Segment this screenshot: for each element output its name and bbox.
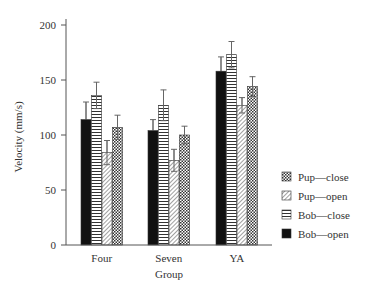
- y-tick-label: 0: [51, 239, 57, 251]
- bar: [81, 120, 91, 245]
- bar: [227, 55, 237, 245]
- legend-label: Pup—open: [298, 190, 348, 202]
- y-axis-label: Velocity (mm/s): [12, 101, 25, 173]
- bar: [169, 160, 179, 245]
- bar: [180, 135, 190, 245]
- bar: [102, 153, 112, 245]
- bar: [148, 131, 158, 245]
- legend-label: Pup—close: [298, 171, 349, 183]
- legend-swatch-icon: [282, 191, 291, 200]
- y-tick-label: 200: [40, 19, 57, 31]
- bar-group-ya: [216, 42, 258, 246]
- x-tick-label: Seven: [155, 252, 182, 264]
- legend-label: Bob—close: [298, 209, 350, 221]
- legend-item: Bob—close: [282, 209, 350, 221]
- y-tick-label: 100: [40, 129, 57, 141]
- y-tick-label: 150: [40, 74, 57, 86]
- bar: [216, 71, 226, 245]
- bar: [159, 105, 169, 245]
- legend-item: Bob—open: [282, 228, 349, 240]
- bar: [248, 87, 258, 245]
- bar: [237, 105, 247, 245]
- x-axis: FourSevenYA: [66, 245, 272, 264]
- legend-item: Pup—close: [282, 171, 349, 183]
- legend: Pup—closePup—openBob—closeBob—open: [282, 171, 350, 240]
- x-axis-label: Group: [155, 268, 184, 280]
- bar: [92, 95, 102, 245]
- bar-group-four: [81, 82, 123, 245]
- y-tick-label: 50: [45, 184, 57, 196]
- legend-label: Bob—open: [298, 228, 349, 240]
- legend-item: Pup—open: [282, 190, 348, 202]
- legend-swatch-icon: [282, 172, 291, 181]
- bars: [81, 42, 258, 246]
- x-tick-label: YA: [229, 252, 244, 264]
- bar-chart: 050100150200 FourSevenYA Pup—closePup—op…: [0, 0, 370, 295]
- x-tick-label: Four: [91, 252, 112, 264]
- legend-swatch-icon: [282, 229, 291, 238]
- y-axis: 050100150200: [40, 19, 67, 251]
- bar-group-seven: [148, 90, 190, 245]
- bar: [113, 127, 123, 245]
- legend-swatch-icon: [282, 210, 291, 219]
